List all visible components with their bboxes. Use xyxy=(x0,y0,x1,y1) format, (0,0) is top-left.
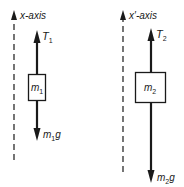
free-body-diagram: x-axis T1 m1 m1g x′-axis T2 m2 m2g xyxy=(0,0,184,187)
x-prime-axis-arrowhead-icon xyxy=(120,10,126,20)
x-axis-arrowhead-icon xyxy=(11,10,17,20)
weight-m2g-label: m2g xyxy=(157,172,175,185)
x-prime-axis-label: x′-axis xyxy=(128,10,157,21)
tension-t2-arrowhead-icon xyxy=(148,28,155,41)
tension-t1-arrowhead-icon xyxy=(34,30,41,43)
left-body-system: x-axis T1 m1 m1g xyxy=(11,10,61,160)
weight-m1g-label: m1g xyxy=(43,129,61,142)
right-body-system: x′-axis T2 m2 m2g xyxy=(120,10,175,185)
weight-m2g-arrowhead-icon xyxy=(148,170,155,183)
tension-t2-label: T2 xyxy=(156,28,167,42)
tension-t1-label: T1 xyxy=(42,30,53,44)
x-axis-label: x-axis xyxy=(19,10,46,21)
weight-m1g-arrowhead-icon xyxy=(34,128,41,141)
